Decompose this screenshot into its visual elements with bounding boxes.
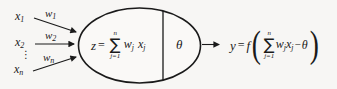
input-term: xj (138, 38, 146, 52)
output-formula: y = f ( n ∑ j=1 wj xj − θ ) (230, 20, 320, 70)
sum-lower-limit: j=1 (110, 53, 120, 60)
weight-term: wj (124, 38, 134, 52)
input-label-x1: x1 (15, 10, 24, 24)
minus-sign: − (293, 39, 301, 50)
close-paren: ) (309, 26, 318, 62)
weight-term-sub: j (132, 43, 134, 52)
output-weight-base: w (276, 37, 284, 51)
equals-sign: = (96, 39, 107, 51)
output-sum-lower-limit: j=1 (264, 53, 274, 60)
weight-wn-sub: n (50, 56, 54, 65)
summation-symbol: n ∑ j=1 (110, 30, 121, 60)
activation-function: f (247, 39, 251, 52)
input-arrow-n (33, 57, 76, 71)
output-sigma-icon: ∑ (264, 37, 275, 53)
input-label-x2: x2 (15, 36, 24, 50)
weight-w2-sub: 2 (52, 34, 56, 43)
input-xn-sub: n (19, 68, 23, 77)
weight-label-w2: w2 (45, 30, 56, 43)
threshold-theta: θ (176, 38, 182, 51)
input-label-xn: xn (14, 63, 23, 77)
output-theta: θ (302, 39, 308, 51)
output-equals-sign: = (236, 39, 247, 51)
output-input-term: xj (286, 38, 294, 52)
input-x1-sub: 1 (20, 15, 24, 24)
weight-w1-sub: 1 (52, 12, 56, 21)
output-summation-symbol: n ∑ j=1 (264, 30, 275, 60)
input-ellipsis: ⋮ (21, 50, 31, 60)
weight-label-wn: wn (43, 52, 54, 65)
open-paren: ( (252, 26, 261, 62)
neuron-sum-formula: z = n ∑ j=1 wj xj (91, 20, 145, 70)
weight-term-base: w (124, 37, 132, 51)
input-term-sub: j (143, 43, 145, 52)
weight-label-w1: w1 (45, 8, 56, 21)
neuron-diagram: x1 x2 ⋮ xn w1 w2 wn z = n ∑ j=1 wj xj θ … (0, 0, 337, 89)
sigma-icon: ∑ (110, 37, 121, 53)
output-weight-term: wj (276, 38, 286, 52)
